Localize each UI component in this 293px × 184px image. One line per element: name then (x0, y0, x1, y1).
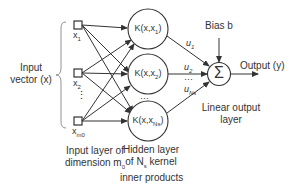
input-label-line1: Input (6, 62, 56, 74)
hidden-ellipsis: ··· (140, 93, 149, 103)
output-layer-caption: Linear output layer (196, 102, 266, 126)
input-brace (56, 22, 66, 128)
bias-label: Bias b (205, 20, 233, 32)
hidden-node-1-label: K(x,x1) (130, 23, 166, 35)
input-vector-label: Input vector (x) (6, 62, 56, 86)
input-ellipsis: ⋮ (76, 89, 87, 102)
sum-symbol: Σ (211, 64, 227, 82)
input-node-1 (74, 21, 82, 29)
input-node-m0 (74, 117, 82, 125)
weight-u1-label: u1 (186, 38, 194, 50)
output-label: Output (y) (240, 60, 284, 72)
input-xm0-label: xm0 (72, 126, 85, 138)
hidden-layer-caption: Hidden layer of Ns kernel inner products (120, 144, 182, 184)
weight-ellipsis: ··· (184, 74, 193, 84)
input-node-2 (74, 69, 82, 77)
hidden-node-2-label: K(x,x2) (130, 68, 166, 80)
hidden-node-ns-label: K(x,xNs) (130, 115, 166, 127)
input-x1-label: x1 (73, 30, 81, 42)
weight-u2-label: u2 (184, 62, 192, 74)
input-label-line2: vector (x) (6, 74, 56, 86)
input-hidden-connections (82, 25, 134, 121)
weight-uns-label: uNs (184, 84, 196, 96)
